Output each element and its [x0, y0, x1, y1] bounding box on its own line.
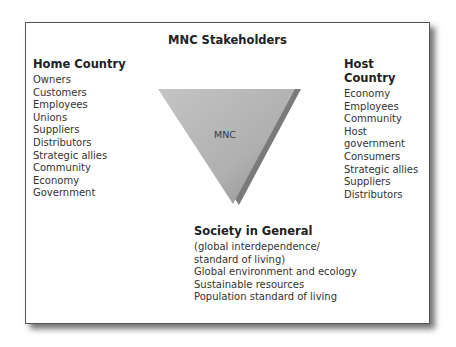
society-group: Society in General (global interdependen…	[194, 224, 357, 304]
list-item: Host government	[344, 126, 429, 151]
list-item: Consumers	[344, 151, 429, 164]
list-item: Distributors	[344, 189, 429, 202]
list-item: Strategic allies	[33, 150, 126, 163]
list-item: Employees	[344, 101, 429, 114]
list-item: Community	[33, 162, 126, 175]
list-item: Suppliers	[344, 176, 429, 189]
list-item: Economy	[344, 88, 429, 101]
list-item: Community	[344, 113, 429, 126]
host-country-heading: Host Country	[344, 57, 429, 85]
diagram-frame: MNC Stakeholders Home Country Owners Cus…	[25, 22, 430, 324]
list-item: Economy	[33, 175, 126, 188]
list-item: Strategic allies	[344, 164, 429, 177]
list-item: Sustainable resources	[194, 279, 357, 292]
list-item: standard of living)	[194, 254, 357, 267]
home-country-heading: Home Country	[33, 57, 126, 71]
list-item: (global interdependence/	[194, 241, 357, 254]
triangle-face	[158, 89, 295, 204]
list-item: Population standard of living	[194, 291, 357, 304]
diagram-title: MNC Stakeholders	[26, 33, 429, 47]
list-item: Unions	[33, 112, 126, 125]
society-heading: Society in General	[194, 224, 357, 238]
home-country-group: Home Country Owners Customers Employees …	[33, 57, 126, 200]
mnc-triangle	[156, 87, 306, 207]
list-item: Owners	[33, 74, 126, 87]
host-country-group: Host Country Economy Employees Community…	[344, 57, 429, 201]
list-item: Employees	[33, 99, 126, 112]
mnc-label: MNC	[214, 129, 236, 140]
list-item: Suppliers	[33, 124, 126, 137]
list-item: Government	[33, 187, 126, 200]
list-item: Global environment and ecology	[194, 266, 357, 279]
list-item: Distributors	[33, 137, 126, 150]
list-item: Customers	[33, 87, 126, 100]
